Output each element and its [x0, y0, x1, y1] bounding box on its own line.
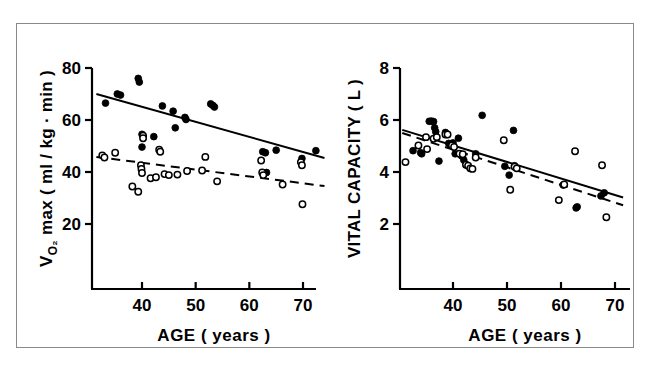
y-tick-label: 6 — [380, 111, 389, 130]
data-point-filled — [506, 172, 513, 179]
panel-vo2max: 2040608040506070AGE ( years )VO₂ max ( m… — [16, 23, 334, 348]
data-point-filled — [312, 147, 319, 154]
x-tick-label: 70 — [294, 296, 313, 315]
x-tick-label: 50 — [498, 296, 517, 315]
y-tick-label: 4 — [380, 163, 390, 182]
vital-capacity-scatter-plot: 246840506070AGE ( years )VITAL CAPACITY … — [330, 23, 648, 348]
data-point-open — [599, 162, 605, 168]
x-tick-label: 60 — [552, 296, 571, 315]
data-point-open — [260, 172, 266, 178]
data-point-open — [299, 162, 305, 168]
data-point-open — [501, 137, 507, 143]
data-point-open — [129, 183, 135, 189]
data-point-filled — [150, 133, 157, 140]
data-point-filled — [479, 112, 486, 119]
data-point-open — [153, 174, 159, 180]
panel-vital-capacity: 246840506070AGE ( years )VITAL CAPACITY … — [330, 23, 648, 348]
data-point-filled — [455, 135, 462, 142]
data-point-filled — [501, 163, 508, 170]
data-point-filled — [410, 147, 417, 154]
data-point-open — [402, 159, 408, 165]
data-point-open — [434, 134, 440, 140]
data-point-filled — [574, 203, 581, 210]
data-point-filled — [436, 158, 443, 165]
x-tick-label: 40 — [444, 296, 463, 315]
data-point-filled — [262, 149, 269, 156]
data-point-filled — [430, 118, 437, 125]
figure-root: 2040608040506070AGE ( years )VO₂ max ( m… — [0, 0, 669, 375]
data-point-filled — [136, 79, 143, 86]
data-point-filled — [211, 104, 218, 111]
y-axis-label: VITAL CAPACITY ( L ) — [345, 79, 364, 258]
y-tick-label: 40 — [62, 163, 81, 182]
data-point-open — [472, 154, 478, 160]
x-axis-label: AGE ( years ) — [157, 326, 270, 345]
data-point-filled — [183, 116, 190, 123]
data-point-filled — [102, 100, 109, 107]
data-point-open — [139, 170, 145, 176]
data-point-filled — [172, 124, 179, 131]
y-axis-label: VO₂ max ( ml / kg · min ) — [37, 70, 60, 267]
data-point-open — [258, 157, 264, 163]
data-point-open — [415, 142, 421, 148]
data-point-open — [561, 181, 567, 187]
data-point-open — [424, 146, 430, 152]
data-point-open — [157, 149, 163, 155]
data-point-open — [112, 150, 118, 156]
x-tick-label: 60 — [240, 296, 259, 315]
data-point-open — [174, 171, 180, 177]
data-point-open — [444, 131, 450, 137]
x-axis-label: AGE ( years ) — [468, 326, 581, 345]
data-point-open — [299, 201, 305, 207]
data-point-open — [469, 166, 475, 172]
data-point-filled — [139, 144, 146, 151]
data-point-filled — [510, 127, 517, 134]
fit-line-open-fit — [96, 157, 324, 186]
data-point-open — [135, 189, 141, 195]
data-point-open — [101, 154, 107, 160]
data-point-open — [460, 151, 466, 157]
data-point-filled — [117, 92, 124, 99]
data-point-filled — [170, 108, 177, 115]
x-tick-label: 50 — [186, 296, 205, 315]
data-point-open — [184, 168, 190, 174]
data-point-open — [603, 214, 609, 220]
data-point-open — [556, 197, 562, 203]
y-tick-label: 20 — [62, 215, 81, 234]
data-point-open — [202, 154, 208, 160]
x-tick-label: 70 — [606, 296, 625, 315]
data-point-filled — [159, 103, 166, 110]
data-point-open — [572, 148, 578, 154]
y-tick-label: 2 — [380, 215, 389, 234]
data-point-open — [214, 178, 220, 184]
data-point-open — [423, 134, 429, 140]
y-tick-label: 8 — [380, 59, 389, 78]
data-point-open — [199, 167, 205, 173]
y-tick-label: 80 — [62, 59, 81, 78]
vo2max-scatter-plot: 2040608040506070AGE ( years )VO₂ max ( m… — [16, 23, 334, 348]
data-point-open — [140, 135, 146, 141]
data-point-open — [507, 186, 513, 192]
data-point-open — [451, 144, 457, 150]
y-tick-label: 60 — [62, 111, 81, 130]
data-point-open — [166, 172, 172, 178]
data-point-open — [279, 181, 285, 187]
data-point-filled — [601, 189, 608, 196]
data-point-filled — [273, 147, 280, 154]
data-point-open — [514, 165, 520, 171]
x-tick-label: 40 — [133, 296, 152, 315]
